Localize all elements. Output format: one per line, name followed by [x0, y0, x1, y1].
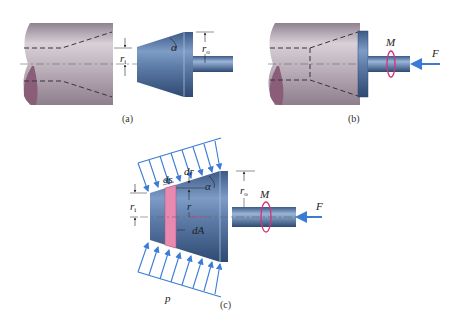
caption-c: (c) [220, 299, 231, 311]
r-label: r [187, 200, 192, 212]
strip-ds [165, 185, 176, 248]
ds-label: ds [163, 173, 173, 185]
panel-a: α ri ro (a) [20, 23, 233, 125]
moment-label-c: M [259, 188, 270, 200]
alpha-label-c: α [205, 180, 211, 192]
r-inner-label-a: ri [120, 52, 126, 66]
shaft-a [193, 56, 233, 72]
pressure-label: p [164, 292, 171, 304]
force-label-b: F [431, 47, 439, 59]
cone-a [137, 32, 193, 97]
r-inner-label-c: ri [130, 200, 136, 214]
dr-label: dr [184, 165, 195, 177]
flange-b [358, 31, 368, 97]
alpha-label-a: α [171, 41, 177, 53]
clutch-diagram: α ri ro (a) M F (b) [0, 0, 453, 322]
caption-a: (a) [122, 113, 133, 125]
moment-label-b: M [385, 36, 396, 48]
panel-b: M F (b) [268, 23, 440, 125]
panel-c: p ds dr r dA α ri ro M F (c) [130, 138, 323, 311]
caption-b: (b) [348, 113, 360, 125]
shaft-b [368, 56, 410, 72]
r-outer-label-a: ro [202, 42, 210, 56]
dA-label: dA [192, 224, 205, 236]
force-label-c: F [315, 200, 323, 212]
r-outer-label-c: ro [240, 184, 248, 198]
